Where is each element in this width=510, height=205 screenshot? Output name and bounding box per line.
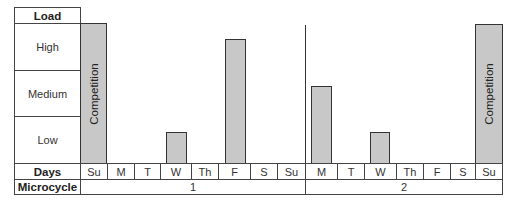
day-cell: W <box>160 163 192 180</box>
day-cell: M <box>305 163 338 180</box>
load-level-low: Low <box>14 116 81 164</box>
day-cell: Su <box>277 163 306 180</box>
load-level-medium: Medium <box>14 70 81 117</box>
day-cell: Th <box>191 163 219 180</box>
microcycle-header: Microcycle <box>14 179 81 195</box>
day-cell: F <box>423 163 451 180</box>
bar-w-1-low <box>166 132 187 164</box>
competition-label: Competition <box>88 63 100 124</box>
bar-f-1-high <box>225 39 246 164</box>
day-cell: F <box>218 163 251 180</box>
microcycle-cell-2: 2 <box>305 179 503 195</box>
bar-w-2-low <box>370 132 390 164</box>
day-cell: Su <box>80 163 108 180</box>
day-cell: M <box>107 163 135 180</box>
bar-competition-2: Competition <box>475 24 503 164</box>
bar-competition-1: Competition <box>80 23 107 164</box>
day-cell: Th <box>396 163 424 180</box>
competition-label: Competition <box>483 63 495 124</box>
day-cell: T <box>337 163 365 180</box>
bar-m-2-medium <box>311 86 332 164</box>
day-cell: Su <box>475 163 503 180</box>
days-header: Days <box>14 163 81 180</box>
day-cell: W <box>364 163 397 180</box>
microcycle-cell-1: 1 <box>80 179 306 195</box>
load-level-high: High <box>14 23 81 71</box>
day-cell: S <box>250 163 278 180</box>
day-cell: S <box>450 163 476 180</box>
load-header: Load <box>14 7 81 24</box>
day-cell: T <box>134 163 161 180</box>
